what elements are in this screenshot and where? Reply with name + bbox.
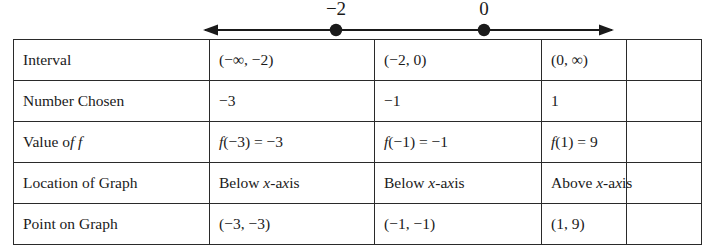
number-line-point-minus-2 (330, 24, 342, 36)
cell-interval-3: (0, ∞) (542, 40, 702, 81)
cell-interval-1: (−∞, −2) (210, 40, 375, 81)
row-label-interval: Interval (14, 40, 210, 81)
number-line-label-minus-2: −2 (306, 0, 366, 19)
row-label-point-on-graph: Point on Graph (14, 204, 210, 245)
cell-location-of-graph-2: Below x-axis (375, 163, 542, 204)
table-row-interval: Interval (−∞, −2) (−2, 0) (0, ∞) (14, 40, 702, 81)
row-label-location-of-graph: Location of Graph (14, 163, 210, 204)
cell-number-chosen-2: −1 (375, 81, 542, 122)
cell-location-of-graph-3: Above x-axis (542, 163, 702, 204)
table-body: Interval (−∞, −2) (−2, 0) (0, ∞) Number … (14, 40, 702, 245)
table-row-point-on-graph: Point on Graph (−3, −3) (−1, −1) (1, 9) (14, 204, 702, 245)
cell-value-of-f-3: f(1) = 9 (542, 122, 702, 163)
cell-point-on-graph-3: (1, 9) (542, 204, 702, 245)
cell-value-of-f-1: f(−3) = −3 (210, 122, 375, 163)
cell-number-chosen-1: −3 (210, 81, 375, 122)
right-arrowhead-icon (599, 25, 614, 36)
table-row-value-of-f: Value of f f(−3) = −3 f(−1) = −1 f(1) = … (14, 122, 702, 163)
number-line: −2 0 (0, 0, 635, 40)
cell-value-of-f-2: f(−1) = −1 (375, 122, 542, 163)
row-label-value-of-f: Value of f (14, 122, 210, 163)
sign-chart-table: Interval (−∞, −2) (−2, 0) (0, ∞) Number … (13, 39, 702, 245)
number-line-label-zero: 0 (454, 0, 514, 19)
left-arrowhead-icon (203, 25, 218, 36)
cell-point-on-graph-1: (−3, −3) (210, 204, 375, 245)
cell-point-on-graph-2: (−1, −1) (375, 204, 542, 245)
number-line-point-zero (478, 24, 490, 36)
row-label-number-chosen: Number Chosen (14, 81, 210, 122)
cell-location-of-graph-1: Below x-axis (210, 163, 375, 204)
table-row-number-chosen: Number Chosen −3 −1 1 (14, 81, 702, 122)
table-row-location-of-graph: Location of Graph Below x-axis Below x-a… (14, 163, 702, 204)
cell-interval-2: (−2, 0) (375, 40, 542, 81)
cell-number-chosen-3: 1 (542, 81, 702, 122)
